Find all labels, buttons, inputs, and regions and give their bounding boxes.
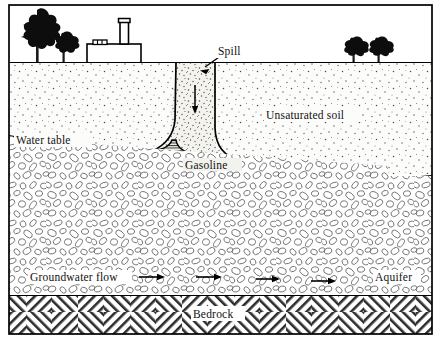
smokestack <box>119 19 131 45</box>
unsaturated-soil-label-group: Unsaturated soil <box>264 108 360 122</box>
gasoline-label-group: Gasoline <box>183 158 242 171</box>
groundwater-flow-label-group: Groundwater flow <box>28 270 132 284</box>
label-unsaturated-soil: Unsaturated soil <box>266 109 344 121</box>
label-aquifer: Aquifer <box>375 271 412 284</box>
hydrogeology-cross-section: Spill Unsaturated soil Water table Gasol… <box>0 0 441 342</box>
aquifer-label-group: Aquifer <box>373 270 421 284</box>
diagram-canvas: Spill Unsaturated soil Water table Gasol… <box>0 0 441 342</box>
label-water-table: Water table <box>16 134 71 146</box>
label-bedrock: Bedrock <box>193 308 233 320</box>
label-gasoline: Gasoline <box>185 159 227 171</box>
label-groundwater-flow: Groundwater flow <box>30 271 118 283</box>
water-table-label-group: Water table <box>14 133 92 147</box>
bedrock-label-group: Bedrock <box>191 306 245 321</box>
label-spill: Spill <box>218 45 241 58</box>
